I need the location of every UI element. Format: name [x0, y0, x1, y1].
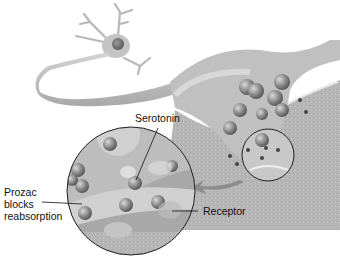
prozac-label-line3: reabsorption: [4, 210, 62, 222]
synapse-diagram: Serotonin Prozac blocks reabsorption Rec…: [0, 0, 340, 264]
receptor-label: Receptor: [203, 205, 246, 217]
prozac-label-line2: blocks: [4, 198, 34, 210]
synapse-illustration: [0, 0, 340, 264]
prozac-label-line1: Prozac: [4, 186, 37, 198]
serotonin-label: Serotonin: [135, 112, 180, 124]
